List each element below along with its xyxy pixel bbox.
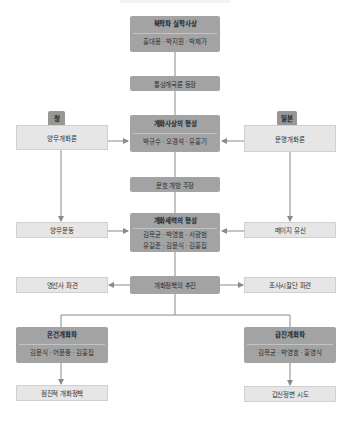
node-title: 개화세력의 형성 — [130, 213, 220, 228]
node-title: 급진개화파 — [244, 327, 336, 344]
node-names: 홍대용 · 박지원 · 박제가 — [130, 34, 220, 51]
node-jeomjin: 점진적 개화정책 — [16, 385, 108, 401]
node-gaehwa-sasang: 개화사상의 형성 박규수 · 오경석 · 유홍기 — [130, 115, 220, 152]
node-gapsin: 갑신정변 시도 — [244, 386, 336, 402]
node-bukhak: 북학파 실학사상 홍대용 · 박지원 · 박제가 — [130, 16, 220, 52]
node-label: 문명개화론 — [275, 134, 304, 144]
node-yangmu-undong: 양무운동 — [16, 222, 108, 238]
node-names-line1: 김옥균 · 박영효 · 서광범 — [130, 229, 220, 241]
node-yeongseonsa: 영선사 파견 — [16, 277, 108, 293]
node-label: 갑신정변 시도 — [272, 389, 309, 399]
node-names: 박규수 · 오경석 · 유홍기 — [130, 134, 220, 151]
node-ongeon: 온건개화파 김윤식 · 어윤중 · 김홍집 — [16, 327, 108, 363]
tab-japan: 일본 — [277, 111, 297, 125]
node-meiji: 메이지 유신 — [244, 222, 336, 238]
node-geupjin: 급진개화파 김옥균 · 박영효 · 홍영식 — [244, 327, 336, 363]
node-josa: 조사시찰단 파견 — [244, 277, 336, 293]
node-label: 통상개국론 등장 — [154, 79, 196, 89]
node-names-line2: 유길준 · 김윤식 · 김홍집 — [130, 241, 220, 252]
node-label: 문호 개방 주장 — [156, 180, 195, 190]
node-label: 양무개화론 — [47, 133, 76, 143]
node-yangmu-gaehwaron: 양무개화론 — [16, 125, 108, 150]
node-label: 개화정책의 추진 — [154, 280, 196, 290]
node-title: 북학파 실학사상 — [130, 16, 220, 33]
node-munmyeong-gaehwaron: 문명개화론 — [244, 125, 336, 152]
node-label: 영선사 파견 — [47, 280, 78, 290]
node-munho: 문호 개방 주장 — [130, 177, 220, 192]
node-label: 양무운동 — [50, 225, 73, 235]
node-names: 김윤식 · 어윤중 · 김홍집 — [16, 345, 108, 362]
node-tongsang: 통상개국론 등장 — [130, 76, 220, 91]
node-label: 메이지 유신 — [275, 225, 306, 235]
node-gaehwa-seryeok: 개화세력의 형성 김옥균 · 박영효 · 서광범 유길준 · 김윤식 · 김홍집 — [130, 213, 220, 252]
node-title: 개화사상의 형성 — [130, 115, 220, 133]
node-names: 김옥균 · 박영효 · 홍영식 — [244, 345, 336, 362]
node-policy: 개화정책의 추진 — [130, 276, 220, 294]
node-label: 점진적 개화정책 — [41, 388, 83, 398]
node-label: 조사시찰단 파견 — [269, 280, 311, 290]
tab-qing: 청 — [48, 111, 65, 125]
node-title: 온건개화파 — [16, 327, 108, 344]
